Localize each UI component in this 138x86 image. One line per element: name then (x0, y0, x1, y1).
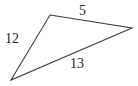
side-length-label-bottom: 13 (70, 57, 84, 71)
triangle-drawing (0, 0, 138, 86)
side-length-label-top-right: 5 (79, 4, 86, 18)
triangle-figure: 12 5 13 (0, 0, 138, 86)
side-length-label-left: 12 (5, 32, 19, 46)
